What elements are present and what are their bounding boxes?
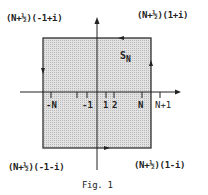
corner-label-top-left: (N+½)(-1+i) (6, 13, 62, 23)
region-label: SN (120, 50, 131, 64)
tick-label-neg-n: -N (46, 100, 57, 110)
tick-label-n-plus-1: N+1 (155, 100, 171, 110)
corner-label-top-right: (N+½)(1+i) (137, 10, 188, 20)
tick-label-n: N (138, 100, 143, 110)
real-axis-arrow-icon (175, 90, 181, 95)
corner-label-bottom-right: (N+½)(1-i) (134, 160, 185, 170)
tick-label-neg-1: -1 (82, 100, 93, 110)
region-label-subscript: N (126, 55, 131, 64)
tick-label-2: 2 (112, 100, 117, 110)
figure-caption: Fig. 1 (82, 180, 113, 190)
corner-label-bottom-left: (N+½)(-1-i) (8, 162, 64, 172)
imaginary-axis-arrow-icon (95, 17, 100, 24)
tick-label-1: 1 (103, 100, 108, 110)
